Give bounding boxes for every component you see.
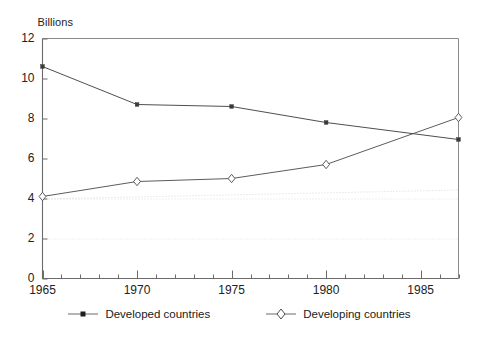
y-tick-label: 8: [11, 111, 35, 125]
legend-item-developed[interactable]: Developed countries: [68, 308, 210, 320]
plot-area: [0, 0, 479, 349]
legend-label-developed: Developed countries: [105, 308, 210, 320]
y-tick-label: 12: [11, 31, 35, 45]
axis-ticks: [43, 39, 460, 279]
legend-label-developing: Developing countries: [303, 308, 410, 320]
y-tick-label: 6: [11, 151, 35, 165]
y-tick-label: 4: [11, 191, 35, 205]
gridlines: [43, 190, 459, 239]
x-tick-label: 1975: [210, 283, 254, 297]
x-tick-label: 1985: [399, 283, 443, 297]
x-tick-label: 1965: [21, 283, 65, 297]
filled-dot-icon: [68, 308, 98, 320]
population-line-chart: Billions 024681012 19651970197519801985 …: [0, 0, 479, 349]
plot-frame: [43, 39, 459, 279]
y-tick-label: 10: [11, 71, 35, 85]
y-tick-label: 2: [11, 231, 35, 245]
y-axis-unit-label: Billions: [38, 16, 74, 28]
open-diamond-icon: [266, 307, 296, 321]
x-tick-label: 1970: [115, 283, 159, 297]
x-tick-label: 1980: [304, 283, 348, 297]
legend-item-developing[interactable]: Developing countries: [266, 307, 410, 321]
data-series: [39, 65, 462, 201]
chart-legend: Developed countries Developing countries: [0, 307, 479, 321]
